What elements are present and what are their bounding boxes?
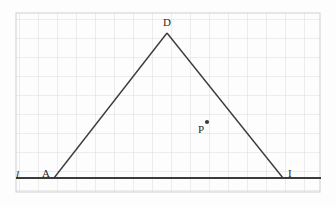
point-label-p: P — [198, 124, 204, 135]
geometry-figure-canvas: l A D I P — [0, 0, 336, 207]
grid-background — [16, 13, 320, 192]
point-p-marker — [205, 120, 209, 124]
vertex-label-i: I — [288, 168, 292, 179]
figure-svg — [0, 0, 336, 207]
line-l-label: l — [16, 169, 19, 180]
vertex-label-d: D — [163, 17, 171, 28]
vertex-label-a: A — [42, 168, 50, 179]
